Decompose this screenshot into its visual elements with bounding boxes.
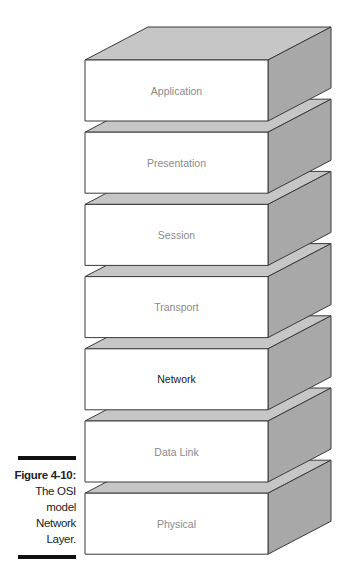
layer-label: Data Link: [154, 446, 199, 458]
layer-label: Presentation: [147, 157, 206, 169]
caption-line: Network: [14, 515, 76, 531]
osi-layer-application: Application: [85, 27, 331, 121]
layer-label: Network: [157, 373, 196, 385]
layer-label: Transport: [154, 301, 199, 313]
figure-caption: Figure 4-10: The OSI model Network Layer…: [14, 456, 76, 559]
caption-line: Layer.: [14, 531, 76, 547]
figure-label: Figure 4-10:: [14, 467, 76, 483]
caption-top-rule: [18, 456, 76, 460]
caption-line: model: [14, 499, 76, 515]
layer-label: Physical: [157, 518, 196, 530]
layer-label: Application: [151, 85, 203, 97]
caption-line: The OSI: [14, 483, 76, 499]
caption-bottom-rule: [18, 555, 76, 559]
layer-label: Session: [158, 229, 196, 241]
